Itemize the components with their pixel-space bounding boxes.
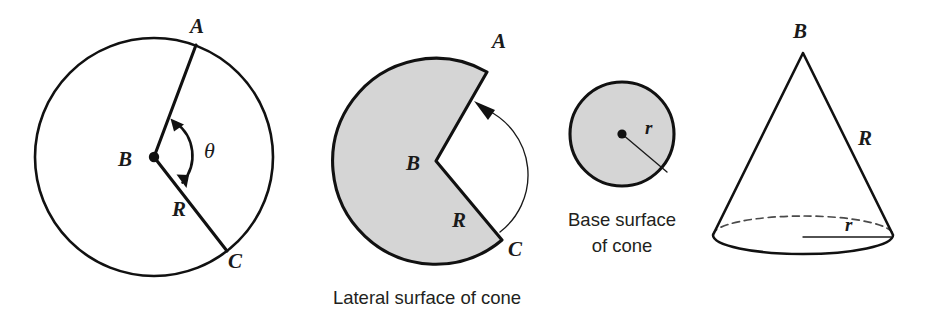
label-point-b: B xyxy=(117,147,132,171)
label-cone-slant-r: R xyxy=(857,126,872,150)
panel-lateral-sector: A B C R Lateral surface of cone xyxy=(333,29,528,308)
panel-cone: B R r xyxy=(713,19,893,254)
label-radius-r-circle: R xyxy=(171,197,186,221)
caption-base-surface-line1: Base surface xyxy=(568,209,676,230)
cone-body-outline xyxy=(713,53,893,254)
label-point-a: A xyxy=(188,14,204,38)
center-point-b-dot xyxy=(149,152,159,162)
angle-arc-theta xyxy=(176,123,193,183)
base-circle-center-dot xyxy=(617,129,626,138)
cone-diagram-svg: Cone surface area decomposition diagram … xyxy=(0,0,925,314)
label-sector-point-c: C xyxy=(508,237,523,261)
label-point-c: C xyxy=(228,249,243,273)
wrap-direction-arc xyxy=(487,110,528,232)
panel-full-circle: A B C R θ xyxy=(35,14,273,276)
caption-base-surface-line2: of cone xyxy=(592,235,653,256)
label-sector-point-a: A xyxy=(490,29,506,53)
label-base-radius-r: r xyxy=(645,117,653,138)
label-cone-radius-r: r xyxy=(845,214,853,235)
label-cone-apex-b: B xyxy=(792,19,807,43)
figure-root: Cone surface area decomposition diagram … xyxy=(0,0,925,314)
panel-base-circle: r Base surface of cone xyxy=(568,82,676,256)
cone-base-hidden-arc xyxy=(713,216,893,235)
label-sector-radius-r: R xyxy=(451,208,466,232)
wrap-direction-arrowhead xyxy=(474,101,495,120)
label-sector-point-b: B xyxy=(405,151,420,175)
caption-lateral-surface: Lateral surface of cone xyxy=(333,287,521,308)
label-angle-theta: θ xyxy=(204,138,215,163)
